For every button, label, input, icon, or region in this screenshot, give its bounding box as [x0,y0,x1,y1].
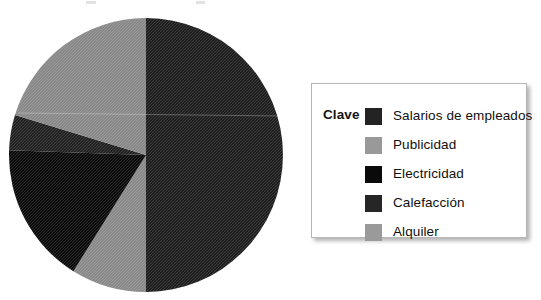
pie-slice-texture [146,18,283,292]
legend-color-swatch [365,224,382,241]
pie-chart-figure: Clave Salarios de empleadosPublicidadEle… [0,0,541,300]
legend-entry: Publicidad [365,135,456,155]
legend-color-swatch [365,166,382,183]
legend-title: Clave [323,108,360,122]
legend-entry-label: Alquiler [393,225,439,239]
legend-entry-label: Publicidad [393,138,456,152]
legend-entry: Calefacción [365,193,465,213]
legend-color-swatch [365,108,382,125]
legend-color-swatch [365,137,382,154]
legend-entry-label: Salarios de empleados [393,109,532,123]
legend-entry-label: Calefacción [393,196,465,210]
legend-entry: Alquiler [365,222,439,242]
legend-box: Clave Salarios de empleadosPublicidadEle… [311,83,527,238]
pie-chart-svg [0,0,300,300]
legend-entry-label: Electricidad [393,167,464,181]
pie-chart [0,0,300,300]
legend-color-swatch [365,195,382,212]
legend-entry: Electricidad [365,164,464,184]
legend-entry: Salarios de empleados [365,106,532,126]
